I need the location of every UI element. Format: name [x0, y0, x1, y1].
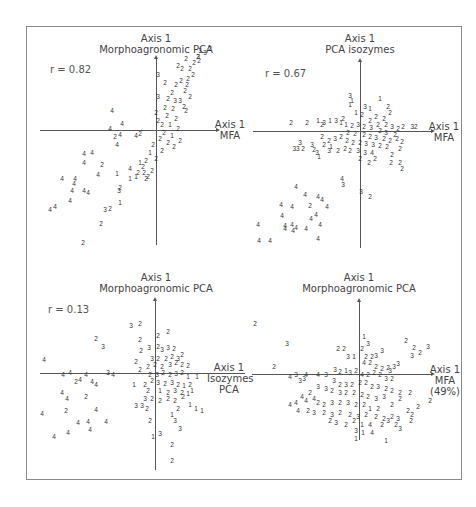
data-point: 32	[410, 123, 417, 130]
data-point: 4	[40, 410, 44, 417]
data-point: 3	[176, 355, 180, 362]
data-point: 2	[373, 155, 377, 162]
data-point: 2	[301, 145, 305, 152]
data-point: 3	[384, 375, 388, 382]
data-point: 2	[183, 87, 187, 94]
data-point: 4	[309, 215, 313, 222]
data-point: 2	[170, 441, 174, 448]
data-point: 2	[174, 81, 178, 88]
data-point: 3	[106, 369, 110, 376]
x-axis-line	[40, 130, 218, 131]
data-point: 3	[134, 402, 138, 409]
data-point: 3	[386, 417, 390, 424]
data-point: 2	[400, 165, 404, 172]
data-point: 2	[350, 381, 354, 388]
data-point: 2	[184, 107, 188, 114]
data-point: 3	[203, 49, 207, 56]
data-point: 3	[334, 419, 338, 426]
data-point: 3	[374, 395, 378, 402]
data-point: 2	[185, 81, 189, 88]
data-point: 3	[333, 366, 337, 373]
data-point: 4	[268, 237, 272, 244]
data-point: 2	[378, 371, 382, 378]
data-point: 2	[362, 123, 366, 130]
data-point: 2	[374, 113, 378, 120]
data-point: 4	[78, 376, 82, 383]
x-axis-label-line1: Axis 1	[428, 364, 462, 375]
data-point: 1	[384, 437, 388, 444]
data-point: 2	[154, 109, 158, 116]
data-point: 4	[360, 371, 364, 378]
data-point: 2	[390, 413, 394, 420]
data-point: 2	[163, 79, 167, 86]
data-point: 3	[103, 206, 107, 213]
data-point: 2	[351, 139, 355, 146]
data-point: 3	[156, 379, 160, 386]
data-point: 4	[82, 150, 86, 157]
data-point: 3	[117, 187, 121, 194]
data-point: 4	[288, 401, 292, 408]
data-point: 33	[292, 145, 299, 152]
data-point: 2	[179, 77, 183, 84]
data-point: 2	[346, 129, 350, 136]
data-point: 2	[171, 105, 175, 112]
data-point: 4	[82, 159, 86, 166]
data-point: 1	[118, 199, 122, 206]
data-point: 4	[316, 235, 320, 242]
data-point: 3	[346, 399, 350, 406]
data-point: 2	[146, 173, 150, 180]
data-point: 2	[168, 371, 172, 378]
data-point: 3	[333, 135, 337, 142]
data-point: 3	[382, 393, 386, 400]
data-point: 4	[90, 149, 94, 156]
data-point: 3	[316, 383, 320, 390]
data-point: 2	[146, 363, 150, 370]
y-axis-label-line2: Morphoagronomic PCA	[299, 283, 419, 294]
data-point: 2	[328, 417, 332, 424]
data-point: 2	[100, 161, 104, 168]
y-axis-line	[156, 57, 157, 245]
data-point: 2	[154, 155, 158, 162]
data-point: 2	[370, 383, 374, 390]
data-point: 4	[68, 197, 72, 204]
data-point: 2	[343, 145, 347, 152]
data-point: 2	[148, 417, 152, 424]
data-point: 4	[304, 371, 308, 378]
data-point: 2	[358, 139, 362, 146]
data-point: 1	[132, 381, 136, 388]
data-point: 4	[304, 225, 308, 232]
data-point: 2	[336, 147, 340, 154]
data-point: 2	[184, 55, 188, 62]
x-axis-label-line1: Axis 1	[212, 119, 248, 130]
data-point: 2	[160, 147, 164, 154]
data-point: 3	[396, 360, 400, 367]
data-point: 3	[140, 402, 144, 409]
data-point: 4	[279, 201, 283, 208]
data-point: 3	[369, 124, 373, 131]
data-point: 2	[166, 95, 170, 102]
data-point: 3	[143, 395, 147, 402]
data-point: 4	[296, 407, 300, 414]
x-axis-line	[252, 374, 433, 375]
data-point: 4	[294, 183, 298, 190]
x-axis-label: Axis 1 Isozymes PCA	[207, 362, 251, 395]
data-point: 2	[384, 121, 388, 128]
data-point: 4	[118, 131, 122, 138]
data-point: 4	[294, 399, 298, 406]
data-point: 3	[166, 344, 170, 351]
data-point: 3	[156, 93, 160, 100]
data-point: 1	[339, 119, 343, 126]
data-point: 3	[324, 371, 328, 378]
data-point: 3	[155, 371, 159, 378]
data-point: 1	[151, 433, 155, 440]
data-point: 2	[385, 143, 389, 150]
data-point: 2	[366, 393, 370, 400]
data-point: 2	[378, 127, 382, 134]
data-point: 3	[363, 149, 367, 156]
data-point: 1	[360, 421, 364, 428]
data-point: 1	[329, 143, 333, 150]
data-point: 1	[348, 101, 352, 108]
data-point: 4	[368, 421, 372, 428]
data-point: 2	[191, 71, 195, 78]
data-point: 4	[316, 371, 320, 378]
